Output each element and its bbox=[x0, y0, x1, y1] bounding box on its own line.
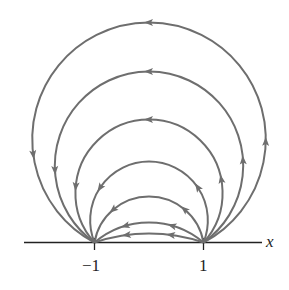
field-curve bbox=[95, 234, 204, 243]
field-curves bbox=[29, 19, 269, 243]
field-curve bbox=[95, 197, 204, 243]
field-curve bbox=[75, 119, 222, 242]
tick-label-1: 1 bbox=[199, 256, 208, 276]
diagram: −1 1 x bbox=[0, 0, 289, 290]
field-curve bbox=[32, 23, 266, 243]
field-curve bbox=[55, 71, 243, 242]
tick-label-minus-1: −1 bbox=[82, 256, 100, 276]
field-curve bbox=[90, 161, 208, 242]
x-axis-label: x bbox=[266, 232, 274, 252]
field-line-plot bbox=[0, 0, 289, 290]
